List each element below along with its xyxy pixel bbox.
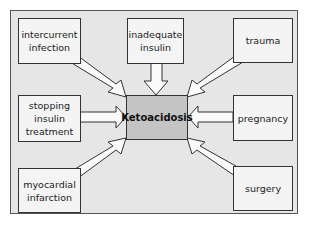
cause-pregnancy: pregnancy xyxy=(233,95,293,141)
cause-myocardial-infarction: myocardial infarction xyxy=(18,168,81,213)
cause-surgery: surgery xyxy=(233,166,293,211)
arrow-inadequate-insulin xyxy=(144,63,168,95)
arrow-pregnancy xyxy=(188,106,233,128)
arrow-stopping-insulin xyxy=(80,106,126,128)
cause-stopping-insulin-treatment: stopping insulin treatment xyxy=(18,95,81,142)
cause-inadequate-insulin: inadequate insulin xyxy=(127,18,184,64)
cause-trauma: trauma xyxy=(233,18,293,63)
cause-intercurrent-infection: intercurrent infection xyxy=(18,18,81,64)
center-ketoacidosis: Ketoacidosis xyxy=(126,95,188,140)
